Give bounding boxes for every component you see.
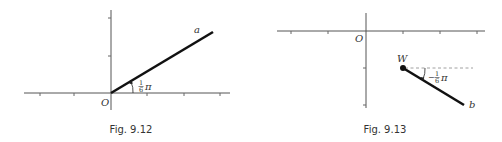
svg-text:6: 6 <box>139 86 143 94</box>
point-w <box>400 65 406 71</box>
figure-9-13: − 1 6 π W b O Fig. 9.13 <box>277 13 485 135</box>
angle-label: − 1 6 π <box>428 70 448 85</box>
caption-fig-9-12: Fig. 9.12 <box>110 124 153 135</box>
svg-text:6: 6 <box>435 77 439 85</box>
svg-text:−: − <box>428 73 435 82</box>
angle-arc <box>423 68 425 79</box>
figures-canvas: 1 6 π a O Fig. 9.12 <box>0 0 502 142</box>
vector-label-b: b <box>469 99 475 110</box>
svg-text:π: π <box>144 81 152 92</box>
point-label-w: W <box>397 53 408 64</box>
figure-9-12: 1 6 π a O Fig. 9.12 <box>24 10 230 135</box>
svg-text:π: π <box>440 72 448 83</box>
angle-label: 1 6 π <box>139 79 153 94</box>
origin-label: O <box>101 97 109 108</box>
origin-label: O <box>355 33 363 44</box>
vector-a <box>111 32 213 93</box>
caption-fig-9-13: Fig. 9.13 <box>364 124 407 135</box>
vector-label-a: a <box>194 24 200 35</box>
